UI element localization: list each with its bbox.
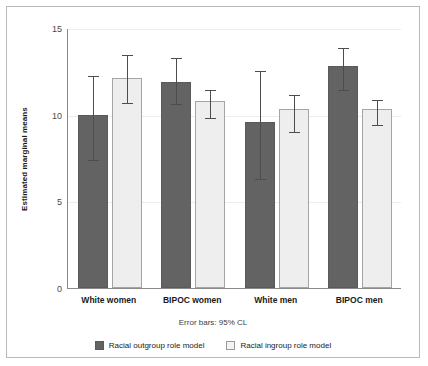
legend-label-ingroup: Racial ingroup role model xyxy=(240,341,331,350)
legend-swatch-ingroup xyxy=(226,341,235,350)
error-bar-note: Error bars: 95% CL xyxy=(7,318,419,327)
y-tick-label: 5 xyxy=(57,197,62,207)
error-bar-cap-bottom xyxy=(372,125,383,126)
error-bar xyxy=(93,76,94,161)
legend-swatch-outgroup xyxy=(95,341,104,350)
bar xyxy=(161,82,191,288)
error-bar xyxy=(176,58,177,105)
y-axis-title: Estimated marginal means xyxy=(20,59,29,259)
error-bar-cap-top xyxy=(338,48,349,49)
error-bar-cap-top xyxy=(171,58,182,59)
error-bar-cap-top xyxy=(205,90,216,91)
error-bar-cap-bottom xyxy=(122,103,133,104)
error-bar-cap-top xyxy=(122,55,133,56)
legend-item-outgroup: Racial outgroup role model xyxy=(95,341,205,350)
error-bar xyxy=(260,71,261,180)
error-bar xyxy=(294,95,295,133)
x-tick-label: BIPOC women xyxy=(163,295,222,305)
error-bar-cap-top xyxy=(255,71,266,72)
x-tick-label: White women xyxy=(81,295,136,305)
bar xyxy=(195,101,225,288)
gridline xyxy=(68,29,401,30)
legend-item-ingroup: Racial ingroup role model xyxy=(226,341,331,350)
error-bar xyxy=(127,55,128,104)
chart-legend: Racial outgroup role model Racial ingrou… xyxy=(7,341,419,350)
error-bar-cap-bottom xyxy=(289,132,300,133)
error-bar-cap-bottom xyxy=(171,104,182,105)
error-bar-cap-bottom xyxy=(338,90,349,91)
error-bar-cap-bottom xyxy=(88,160,99,161)
error-bar xyxy=(377,100,378,126)
bar xyxy=(362,109,392,288)
y-tick-label: 15 xyxy=(52,24,62,34)
error-bar-cap-top xyxy=(372,100,383,101)
bar xyxy=(328,66,358,288)
x-tick-label: BIPOC men xyxy=(336,295,383,305)
error-bar-cap-bottom xyxy=(255,179,266,180)
y-tick-label: 0 xyxy=(57,284,62,294)
figure-panel: Estimated marginal means 051015 White wo… xyxy=(6,6,420,358)
error-bar-cap-top xyxy=(289,95,300,96)
error-bar xyxy=(210,90,211,119)
x-tick-label: White men xyxy=(254,295,297,305)
plot-area: Estimated marginal means 051015 xyxy=(67,29,401,289)
bar xyxy=(279,109,309,288)
error-bar xyxy=(343,48,344,91)
y-tick-label: 10 xyxy=(52,111,62,121)
error-bar-cap-bottom xyxy=(205,118,216,119)
error-bar-cap-top xyxy=(88,76,99,77)
legend-label-outgroup: Racial outgroup role model xyxy=(109,341,205,350)
bar xyxy=(112,78,142,288)
